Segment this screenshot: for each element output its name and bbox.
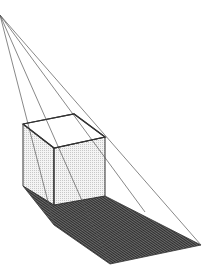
cube-shadow-diagram <box>0 0 209 279</box>
diagram-canvas <box>0 0 209 279</box>
